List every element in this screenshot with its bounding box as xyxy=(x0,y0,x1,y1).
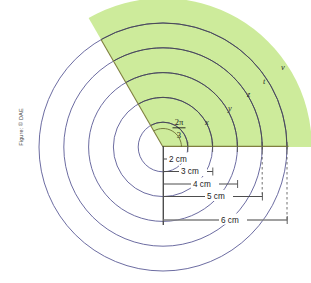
dim-label-6cm: 6 cm xyxy=(221,216,239,225)
arc-label-y: y xyxy=(227,104,232,113)
projection-dashed-lines xyxy=(262,147,287,220)
dim-label-3cm: 3 cm xyxy=(181,167,199,176)
circle-diagram-svg: 2 cm 3 cm 4 cm 5 cm 6 cm 2π 3 x y z t v xyxy=(0,0,311,283)
dim-label-2cm: 2 cm xyxy=(169,155,187,164)
dimension-labels: 2 cm 3 cm 4 cm 5 cm 6 cm xyxy=(167,153,247,225)
dim-label-5cm: 5 cm xyxy=(207,192,225,201)
shaded-sector xyxy=(89,0,311,147)
dim-label-4cm: 4 cm xyxy=(193,180,211,189)
figure-credit: Figure: © DAE xyxy=(18,99,24,155)
arc-label-v: v xyxy=(281,63,285,72)
figure-container: 2 cm 3 cm 4 cm 5 cm 6 cm 2π 3 x y z t v … xyxy=(0,0,311,283)
arc-label-z: z xyxy=(246,90,251,99)
angle-numerator: 2π xyxy=(175,117,184,127)
angle-denominator: 3 xyxy=(177,130,181,140)
arc-label-x: x xyxy=(204,118,209,127)
